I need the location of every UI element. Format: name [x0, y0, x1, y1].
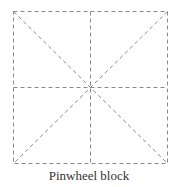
pinwheel-block-diagram: [0, 0, 178, 187]
diagram-caption: Pinwheel block: [0, 168, 178, 184]
